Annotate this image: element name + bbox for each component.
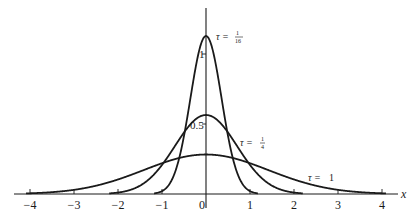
label-tau-1-4: τ = 1 4 — [240, 136, 265, 150]
x-tick-label: −4 — [24, 198, 37, 212]
svg-text:1: 1 — [261, 136, 264, 142]
x-tick-label: 2 — [291, 198, 297, 212]
svg-text:1: 1 — [329, 172, 334, 183]
svg-text:τ =: τ = — [240, 137, 253, 148]
heat-kernel-chart: −4−3−2−101234 x 1 0.5 τ = 1 16 τ = 1 4 τ… — [0, 0, 419, 218]
svg-text:τ =: τ = — [216, 31, 229, 42]
svg-text:τ =: τ = — [308, 172, 321, 183]
x-tick-label: −1 — [156, 198, 169, 212]
y-tick-label-half: 0.5 — [190, 119, 204, 131]
x-tick-label: 3 — [335, 198, 341, 212]
x-axis-label: x — [400, 187, 407, 201]
svg-text:1: 1 — [236, 30, 239, 36]
x-tick-label: 1 — [247, 198, 253, 212]
label-tau-1-16: τ = 1 16 — [216, 30, 243, 44]
svg-text:16: 16 — [235, 38, 241, 44]
svg-text:4: 4 — [261, 144, 264, 150]
x-tick-label: 0 — [199, 198, 205, 212]
x-tick-label: −3 — [68, 198, 81, 212]
label-tau-1: τ = 1 — [308, 172, 334, 183]
x-tick-label: 4 — [379, 198, 385, 212]
y-tick-label-1: 1 — [199, 48, 205, 60]
y-ticks — [202, 54, 206, 124]
x-tick-label: −2 — [112, 198, 125, 212]
x-ticks: −4−3−2−101234 — [24, 189, 385, 212]
